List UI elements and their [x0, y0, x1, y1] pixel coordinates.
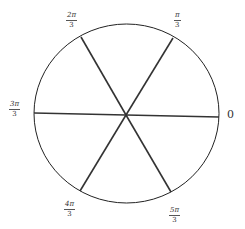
- label-5pi-3: 5π 3: [169, 207, 180, 224]
- label-denominator: 3: [67, 210, 71, 218]
- spoke-3pi-3: [34, 113, 126, 115]
- label-denominator: 3: [175, 21, 179, 29]
- label-denominator: 3: [172, 216, 176, 224]
- label-2pi-3: 2π 3: [66, 12, 77, 29]
- label-numerator: 2π: [66, 12, 77, 21]
- label-numerator: 4π: [64, 201, 75, 210]
- label-numerator: 3π: [9, 101, 20, 110]
- label-denominator: 3: [12, 110, 16, 118]
- label-denominator: 3: [69, 21, 73, 29]
- label-pi-3: π 3: [174, 12, 181, 29]
- label-4pi-3: 4π 3: [64, 201, 75, 218]
- spoke-5pi-3: [126, 115, 171, 192]
- label-0: 0: [227, 108, 234, 121]
- label-numerator: 5π: [169, 207, 180, 216]
- spoke-4pi-3: [80, 115, 126, 191]
- label-numerator: π: [174, 12, 181, 21]
- spoke-pi-3: [126, 38, 173, 115]
- spoke-2pi-3: [81, 37, 126, 115]
- spoke-0: [126, 115, 219, 117]
- label-3pi-3: 3π 3: [9, 101, 20, 118]
- circle-diagram: [0, 0, 245, 229]
